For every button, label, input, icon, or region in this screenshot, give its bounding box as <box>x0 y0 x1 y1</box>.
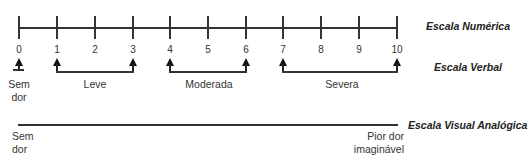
tick-1 <box>56 16 58 39</box>
bracket-severa-base <box>282 71 398 73</box>
tick-label-2: 2 <box>85 44 105 55</box>
range-label-moderada: Moderada <box>177 78 241 91</box>
tick-2 <box>94 16 96 39</box>
tick-3 <box>132 16 134 39</box>
numeric-scale-title: Escala Numérica <box>426 20 510 32</box>
vas-title: Escala Visual Analógica <box>408 119 527 131</box>
tick-label-7: 7 <box>273 44 293 55</box>
tick-label-3: 3 <box>123 44 143 55</box>
tick-label-10: 10 <box>387 44 407 55</box>
vas-right-label: Pior dor imaginável <box>348 130 404 156</box>
vas-left-label: Sem dor <box>12 130 44 156</box>
vas-line <box>18 124 398 126</box>
tick-5 <box>207 16 209 39</box>
no-pain-label: Sem dor <box>3 78 35 104</box>
tick-label-1: 1 <box>47 44 67 55</box>
tick-label-4: 4 <box>160 44 180 55</box>
tick-label-9: 9 <box>349 44 369 55</box>
bracket-leve-base <box>56 71 134 73</box>
tick-label-5: 5 <box>198 44 218 55</box>
tick-6 <box>245 16 247 39</box>
tick-7 <box>282 16 284 39</box>
range-label-leve: Leve <box>70 78 120 91</box>
tick-9 <box>358 16 360 39</box>
tick-label-8: 8 <box>311 44 331 55</box>
tick-10 <box>396 16 398 39</box>
range-label-severa: Severa <box>314 78 370 91</box>
tick-4 <box>169 16 171 39</box>
bracket-moderada-base <box>169 71 247 73</box>
tick-8 <box>320 16 322 39</box>
no-pain-base <box>13 69 24 71</box>
tick-label-0: 0 <box>9 44 29 55</box>
tick-0 <box>18 16 20 39</box>
verbal-scale-title: Escala Verbal <box>434 61 502 73</box>
tick-label-6: 6 <box>236 44 256 55</box>
